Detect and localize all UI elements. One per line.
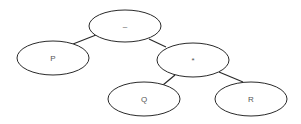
edge-times-q (163, 75, 175, 85)
node-p: P (17, 41, 89, 75)
node-minus: – (89, 10, 161, 42)
edge-minus-times (149, 39, 166, 47)
node-minus-label: – (123, 22, 128, 31)
node-times: * (157, 43, 229, 77)
node-q: Q (108, 82, 180, 116)
node-times-label: * (191, 56, 194, 65)
node-p-label: P (50, 54, 55, 63)
edge-times-r (219, 72, 243, 82)
node-q-label: Q (141, 95, 147, 104)
node-r: R (215, 82, 287, 116)
node-r-label: R (248, 95, 254, 104)
edge-minus-p (73, 35, 96, 44)
expression-tree-diagram: – P * Q R (0, 0, 301, 124)
